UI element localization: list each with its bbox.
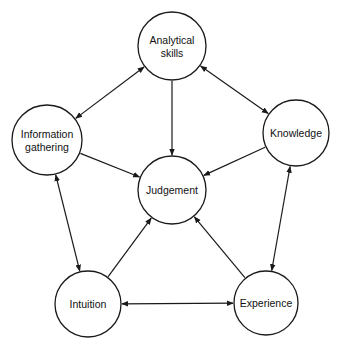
node-knowledge: Knowledge: [263, 100, 329, 166]
diagram-canvas: Analytical skills Information gathering …: [0, 0, 340, 349]
node-label-line: Analytical: [150, 34, 195, 46]
edge-knowledge-experience-arrow: [272, 166, 290, 270]
node-judgement: Judgement: [138, 156, 206, 224]
node-label-line: Judgement: [146, 184, 198, 196]
edge-knowledge-judgement-arrow: [204, 147, 265, 175]
node-label-line: skills: [161, 47, 184, 59]
edge-information-intuition-arrow: [56, 175, 80, 271]
node-intuition: Intuition: [55, 271, 121, 337]
nodes-layer: Analytical skills Information gathering …: [12, 12, 329, 337]
edge-information-judgement-arrow: [80, 153, 139, 177]
node-information-gathering: Information gathering: [12, 105, 82, 175]
node-label-line: Intuition: [70, 298, 107, 310]
node-label-line: Experience: [240, 297, 293, 309]
node-label-line: gathering: [25, 141, 69, 153]
node-analytical-skills: Analytical skills: [138, 12, 206, 80]
node-label-line: Information: [21, 128, 74, 140]
edge-intuition-judgement-arrow: [108, 218, 151, 276]
edge-experience-judgement-arrow: [194, 217, 245, 278]
node-label-line: Knowledge: [270, 127, 322, 139]
edge-intuition-experience-arrow: [122, 303, 233, 304]
edge-analytical-information-arrow: [76, 67, 144, 118]
edge-analytical-knowledge-arrow: [201, 66, 269, 113]
node-experience: Experience: [234, 271, 298, 335]
